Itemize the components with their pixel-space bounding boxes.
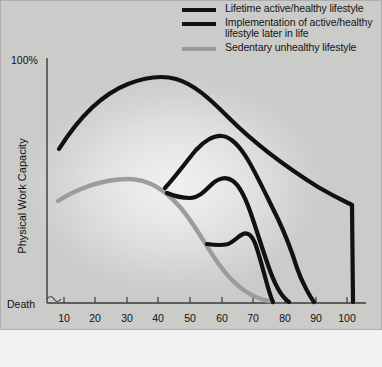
legend-swatch-line-icon: [182, 8, 216, 12]
series-sedentary-unhealthy: [58, 179, 270, 301]
legend-item-sedentary-unhealthy: Sedentary unhealthy lifestyle: [182, 42, 378, 54]
x-tick-label: 100: [334, 312, 360, 324]
chart-panel: Lifetime active/healthy lifestyle Implem…: [0, 0, 382, 330]
legend-label: Lifetime active/healthy lifestyle: [225, 3, 364, 15]
x-tick-label: 50: [177, 312, 203, 324]
legend-label: Sedentary unhealthy lifestyle: [225, 42, 356, 54]
legend-label: Implementation of active/healthy lifesty…: [225, 17, 372, 40]
figure-caption-strip: Figure 12-10: [0, 330, 382, 367]
legend-item-lifetime-active: Lifetime active/healthy lifestyle: [182, 3, 378, 15]
x-tick-label: 70: [240, 312, 266, 324]
x-tick-label: 10: [51, 312, 77, 324]
legend-swatch-line-icon: [182, 22, 216, 26]
x-tick-label: 80: [272, 312, 298, 324]
series-implementation-mid: [167, 178, 289, 302]
y-axis-title: Physical Work Capacity: [16, 116, 28, 276]
series-implementation-late: [207, 233, 273, 302]
legend-swatch-line-icon: [182, 47, 216, 51]
x-tick-label: 90: [303, 312, 329, 324]
legend-item-implementation-later: Implementation of active/healthy lifesty…: [182, 17, 378, 40]
x-tick-label: 40: [145, 312, 171, 324]
axis-break-icon: [47, 297, 61, 302]
y-axis-top-label: 100%: [11, 54, 38, 66]
y-axis-bottom-label: Death: [7, 298, 35, 310]
x-tick-label: 30: [114, 312, 140, 324]
x-tick-label: 60: [209, 312, 235, 324]
chart-legend: Lifetime active/healthy lifestyle Implem…: [182, 3, 378, 55]
x-tick-label: 20: [82, 312, 108, 324]
figure-root: Lifetime active/healthy lifestyle Implem…: [0, 0, 382, 367]
x-tick-marks: [64, 297, 347, 303]
